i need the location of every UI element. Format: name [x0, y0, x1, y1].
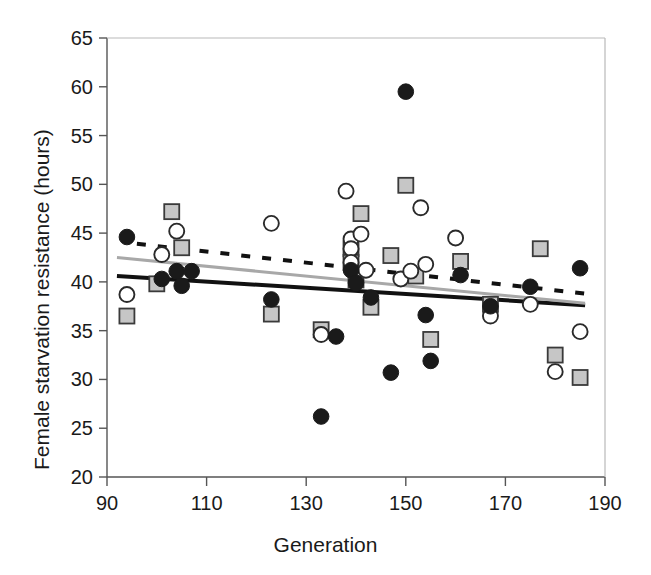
- x-axis-title: Generation: [0, 533, 651, 557]
- x-tick-label: 110: [191, 492, 223, 514]
- x-tick-label: 170: [489, 492, 522, 514]
- y-tick-label: 65: [71, 27, 93, 49]
- data-point-filled-circle: [483, 298, 499, 314]
- data-point-filled-circle: [264, 292, 280, 308]
- data-point-filled-circle: [523, 279, 539, 295]
- data-point-gray-square: [119, 309, 134, 324]
- y-tick-label: 60: [71, 76, 93, 98]
- data-point-open-circle: [154, 247, 169, 262]
- data-point-open-circle: [358, 263, 373, 278]
- y-tick-label: 40: [71, 271, 93, 293]
- data-point-filled-circle: [348, 275, 364, 291]
- data-point-filled-circle: [383, 365, 399, 381]
- data-point-gray-square: [453, 254, 468, 269]
- x-tick-label: 190: [588, 492, 621, 514]
- data-point-gray-square: [383, 248, 398, 263]
- data-point-open-circle: [119, 287, 134, 302]
- x-tick-label: 130: [290, 492, 323, 514]
- y-tick-label: 50: [71, 173, 93, 195]
- data-point-open-circle: [169, 224, 184, 239]
- y-axis-ticks: [99, 38, 107, 477]
- y-tick-label: 25: [71, 417, 93, 439]
- data-point-filled-circle: [363, 290, 379, 306]
- data-point-open-circle: [403, 264, 418, 279]
- data-point-filled-circle: [169, 263, 185, 279]
- x-tick-label: 150: [389, 492, 422, 514]
- y-tick-label: 55: [71, 125, 93, 147]
- data-point-open-circle: [573, 324, 588, 339]
- data-point-filled-circle: [174, 278, 190, 294]
- data-point-open-circle: [413, 200, 428, 215]
- y-axis-tick-labels: 20253035404550556065: [71, 27, 93, 488]
- data-point-filled-circle: [313, 409, 329, 425]
- data-point-filled-circle: [418, 307, 434, 323]
- data-point-gray-square: [174, 240, 189, 255]
- data-point-open-circle: [523, 297, 538, 312]
- data-point-open-circle: [339, 184, 354, 199]
- data-point-open-circle: [314, 327, 329, 342]
- data-point-open-circle: [353, 227, 368, 242]
- y-tick-label: 35: [71, 320, 93, 342]
- y-tick-label: 30: [71, 368, 93, 390]
- data-point-gray-square: [164, 204, 179, 219]
- data-point-gray-square: [548, 348, 563, 363]
- data-points: [119, 84, 588, 424]
- data-point-gray-square: [533, 241, 548, 256]
- data-point-filled-circle: [154, 271, 170, 287]
- data-point-open-circle: [448, 230, 463, 245]
- data-point-open-circle: [418, 257, 433, 272]
- scatter-chart: 20253035404550556065 90110130150170190 G…: [0, 0, 651, 575]
- data-point-gray-square: [353, 206, 368, 221]
- data-point-filled-circle: [119, 229, 135, 245]
- data-point-filled-circle: [398, 84, 414, 100]
- data-point-gray-square: [573, 370, 588, 385]
- data-point-open-circle: [548, 364, 563, 379]
- x-axis-ticks: [107, 477, 605, 486]
- data-point-gray-square: [423, 332, 438, 347]
- y-tick-label: 20: [71, 466, 93, 488]
- data-point-filled-circle: [423, 353, 439, 369]
- plot-area: 20253035404550556065 90110130150170190: [0, 0, 651, 575]
- data-point-gray-square: [398, 178, 413, 193]
- y-tick-label: 45: [71, 222, 93, 244]
- data-point-open-circle: [264, 216, 279, 231]
- data-point-gray-square: [264, 307, 279, 322]
- y-axis-title: Female starvation resistance (hours): [30, 129, 54, 470]
- data-point-filled-circle: [453, 267, 469, 283]
- x-tick-label: 90: [96, 492, 118, 514]
- data-point-filled-circle: [572, 260, 588, 276]
- x-axis-tick-labels: 90110130150170190: [96, 492, 622, 514]
- data-point-filled-circle: [184, 263, 200, 279]
- data-point-filled-circle: [328, 329, 344, 345]
